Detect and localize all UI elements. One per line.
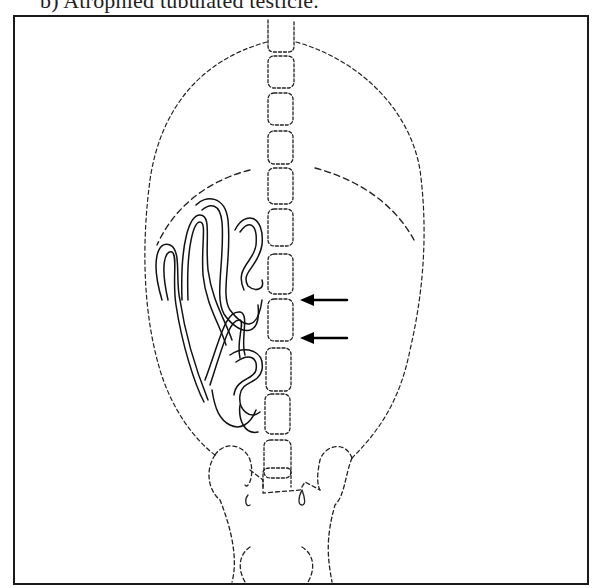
outer-outline-right — [296, 42, 424, 458]
arrow-head-upper — [300, 294, 314, 306]
diagram — [0, 0, 602, 588]
lower-left-hook — [246, 495, 250, 506]
lower-outline — [209, 446, 352, 582]
central-segment-chain — [263, 20, 294, 487]
arrow-head-lower — [300, 332, 314, 344]
coiled-tubules — [156, 199, 262, 433]
lower-right-drop — [299, 490, 305, 505]
inner-arc-right — [315, 168, 414, 240]
